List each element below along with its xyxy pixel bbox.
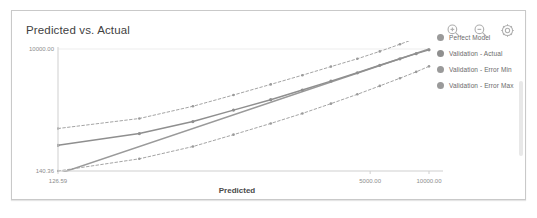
legend-item[interactable]: Validation - Error Min [437,63,537,76]
data-point-marker [138,158,141,161]
legend-item-label: Validation - Actual [449,50,502,57]
series-line [58,41,429,129]
page-root: Predicted vs. Actual [0,0,537,218]
x-tick-label: 10000.00 [416,178,442,184]
data-point-marker [378,85,381,88]
legend-item[interactable]: Validation - Actual [437,47,537,60]
data-point-marker [398,57,401,60]
data-point-marker [138,132,141,135]
x-tick-label: 126.59 [49,178,68,184]
data-point-marker [232,133,235,136]
data-point-marker [301,112,304,115]
data-point-marker [301,74,304,77]
legend-item-label: Validation - Error Max [449,82,514,89]
data-point-marker [399,77,402,80]
y-tick-label: 10000.00 [29,46,55,52]
data-point-marker [232,109,235,112]
data-point-marker [232,94,235,97]
data-point-marker [191,120,194,123]
series-layer [56,41,430,174]
x-tick-label: 5000.00 [359,178,381,184]
data-point-marker [415,71,418,74]
legend-marker-icon [437,34,444,41]
data-point-marker [329,80,332,83]
series-line [58,50,429,145]
data-point-marker [269,83,272,86]
data-point-marker [269,98,272,101]
data-point-marker [415,52,418,55]
data-point-marker [330,102,333,105]
data-point-marker [378,64,381,67]
legend-item[interactable]: Validation - Error Max [437,79,537,92]
card-title: Predicted vs. Actual [26,24,130,36]
data-point-marker [427,48,430,51]
data-point-marker [301,88,304,91]
legend-item-label: Perfect Model [449,34,490,41]
legend-marker-icon [437,82,444,89]
legend-marker-icon [437,50,444,57]
legend-item-label: Validation - Error Min [449,66,512,73]
chart-card: Predicted vs. Actual [11,10,526,200]
legend-item[interactable]: Perfect Model [437,31,537,44]
data-point-marker [428,65,431,68]
data-point-marker [356,93,359,96]
data-point-marker [138,117,141,120]
data-point-marker [192,105,195,108]
x-axis-title: Predicted [219,186,256,195]
data-point-marker [356,57,359,60]
data-point-marker [269,122,272,125]
data-point-marker [378,50,381,53]
legend-marker-icon [437,66,444,73]
data-point-marker [356,71,359,74]
data-point-marker [399,43,402,46]
data-point-marker [192,145,195,148]
y-tick-label: 140.36 [36,168,55,174]
chart-legend: Perfect Model Validation - Actual Valida… [437,31,537,95]
data-point-marker [330,65,333,68]
